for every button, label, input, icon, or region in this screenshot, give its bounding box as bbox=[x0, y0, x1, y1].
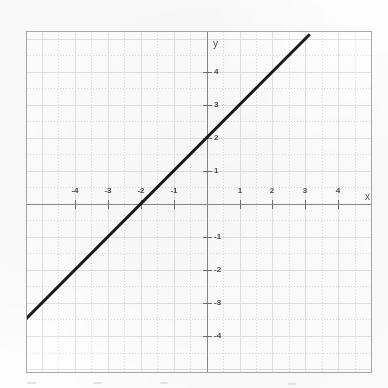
scan-artifact bbox=[160, 382, 168, 384]
scan-artifact bbox=[288, 383, 296, 385]
grid-line-vertical bbox=[371, 32, 372, 372]
graph-plot-area: -4-3-2-11234-4-3-2-11234 y x bbox=[26, 31, 372, 373]
scan-artifact bbox=[27, 382, 36, 384]
line-y-equals-x-plus-2 bbox=[27, 35, 309, 318]
scanned-page: -4-3-2-11234-4-3-2-11234 y x bbox=[0, 0, 388, 388]
scan-artifact bbox=[93, 382, 102, 384]
plotted-line-layer bbox=[27, 32, 371, 372]
